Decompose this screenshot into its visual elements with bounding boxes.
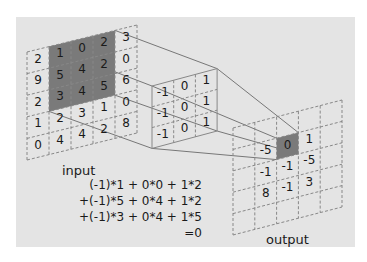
input-cell: 9 [34, 73, 42, 87]
equation-result: =0 [60, 225, 202, 241]
input-cell: 0 [122, 95, 130, 109]
kernel-cell: 1 [202, 73, 210, 87]
input-cell: 8 [122, 116, 130, 130]
input-cell: 2 [100, 35, 108, 49]
input-cell: 3 [78, 106, 86, 120]
equation-line-1: (-1)*1 + 0*0 + 1*2 [60, 177, 202, 193]
equation-line-3: +(-1)*3 + 0*4 + 1*5 [60, 209, 202, 225]
input-cell: 1 [34, 116, 42, 130]
output-cell: 8 [262, 186, 270, 200]
input-cell: 4 [56, 133, 64, 147]
input-cell: 6 [122, 73, 130, 87]
input-label: input [62, 163, 95, 178]
kernel-cell: 1 [202, 94, 210, 108]
input-cell: 2 [100, 122, 108, 136]
input-grid: 2102395420234561231004428 [27, 25, 137, 160]
input-cell: 2 [56, 111, 64, 125]
output-cell: -1 [282, 180, 294, 194]
output-cell: 3 [305, 175, 313, 189]
output-cell: -5 [260, 143, 272, 157]
kernel-cell: -1 [157, 85, 169, 99]
output-cell: -1 [282, 159, 294, 173]
output-grid: -501-1-1-58-13 [233, 100, 342, 235]
input-cell: 2 [34, 95, 42, 109]
input-cell: 3 [56, 89, 64, 103]
input-cell: 4 [78, 84, 86, 98]
output-cell: -5 [303, 153, 315, 167]
input-cell: 1 [56, 46, 64, 60]
connector-line [217, 69, 298, 133]
output-cell: -1 [260, 165, 272, 179]
kernel-grid: -101-101-101 [152, 69, 217, 149]
kernel-cell: 0 [181, 121, 189, 135]
connector-line [152, 148, 277, 159]
input-cell: 4 [78, 62, 86, 76]
kernel-cell: 1 [202, 115, 210, 129]
input-cell: 0 [78, 41, 86, 55]
input-cell: 0 [122, 52, 130, 66]
input-cell: 5 [56, 68, 64, 82]
input-cell: 2 [100, 57, 108, 71]
output-cell: 0 [284, 138, 292, 152]
kernel-cell: 0 [181, 100, 189, 114]
equation-line-2: +(-1)*5 + 0*4 + 1*2 [60, 193, 202, 209]
input-cell: 4 [78, 127, 86, 141]
input-cell: 3 [122, 30, 130, 44]
kernel-cell: -1 [157, 127, 169, 141]
connector-line [115, 30, 217, 68]
input-cell: 2 [34, 52, 42, 66]
output-cell: 1 [305, 132, 313, 146]
equation-block: (-1)*1 + 0*0 + 1*2 +(-1)*5 + 0*4 + 1*2 +… [60, 177, 202, 241]
input-cell: 5 [100, 79, 108, 93]
input-cell: 0 [34, 138, 42, 152]
kernel-cell: 0 [181, 79, 189, 93]
input-cell: 1 [100, 100, 108, 114]
output-label: output [266, 232, 309, 247]
kernel-cell: -1 [157, 106, 169, 120]
